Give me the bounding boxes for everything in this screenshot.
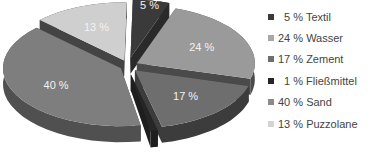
- legend-swatch-icon: [268, 78, 274, 84]
- slice-value-label: 17 %: [173, 90, 198, 102]
- legend-label: 24 % Wasser: [278, 32, 343, 44]
- legend-swatch-icon: [268, 99, 274, 105]
- slice-value-label: 13 %: [84, 21, 109, 33]
- legend-label: 5 % Textil: [278, 11, 331, 23]
- legend-item-sand: 40 % Sand: [268, 92, 371, 113]
- chart-legend: 5 % Textil 24 % Wasser 17 % Zement 1 % F…: [268, 6, 371, 134]
- slice-value-label: 24 %: [189, 41, 214, 53]
- legend-swatch-icon: [268, 56, 274, 62]
- legend-label: 17 % Zement: [278, 53, 343, 65]
- legend-item-textil: 5 % Textil: [268, 6, 371, 27]
- legend-swatch-icon: [268, 121, 274, 127]
- legend-item-wasser: 24 % Wasser: [268, 27, 371, 48]
- slice-value-label: 40 %: [44, 79, 69, 91]
- legend-label: 40 % Sand: [278, 96, 332, 108]
- legend-swatch-icon: [268, 14, 274, 20]
- legend-item-fliessmittel: 1 % Fließmittel: [268, 70, 371, 91]
- legend-label: 1 % Fließmittel: [278, 75, 357, 87]
- slice-value-label: 5 %: [140, 0, 159, 11]
- legend-item-puzzolane: 13 % Puzzolane: [268, 113, 371, 134]
- legend-label: 13 % Puzzolane: [278, 118, 358, 130]
- legend-swatch-icon: [268, 35, 274, 41]
- legend-item-zement: 17 % Zement: [268, 49, 371, 70]
- pie-chart: 5 %13 %24 %40 %17 %: [0, 0, 260, 154]
